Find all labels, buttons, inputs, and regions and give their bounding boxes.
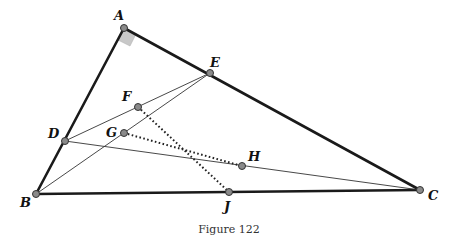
figure-caption: Figure 122 (198, 223, 260, 236)
segment-AB (36, 28, 124, 194)
label-F: F (121, 89, 132, 104)
point-E (207, 70, 214, 77)
label-E: E (209, 55, 221, 70)
point-A (121, 25, 128, 32)
label-A: A (112, 8, 124, 23)
segment-FJ (138, 107, 229, 192)
segment-AC (124, 28, 420, 190)
label-C: C (428, 188, 439, 203)
label-J: J (221, 199, 231, 214)
point-J (226, 189, 233, 196)
label-H: H (247, 149, 261, 164)
point-F (135, 104, 142, 111)
segment-GH (124, 133, 242, 166)
point-B (33, 191, 40, 198)
label-G: G (106, 125, 117, 140)
point-D (62, 138, 69, 145)
geometry-figure: A B C D E F G H J Figure 122 (0, 0, 458, 242)
point-C (417, 187, 424, 194)
point-G (121, 130, 128, 137)
label-B: B (19, 195, 31, 210)
label-D: D (47, 126, 60, 141)
point-H (239, 163, 246, 170)
